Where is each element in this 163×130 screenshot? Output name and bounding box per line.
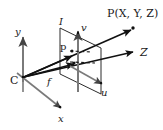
- axis-u-tip-marker: [100, 82, 102, 84]
- camera-center-label: C: [10, 74, 18, 87]
- image-point-label: p: [60, 41, 66, 52]
- axis-z-label: Z: [139, 46, 148, 59]
- camera-center-marker: [22, 76, 25, 79]
- camera-projection-diagram: P(X, Y, Z) I p f C y x Z u v: [0, 0, 163, 130]
- axis-v-label: v: [81, 22, 87, 33]
- axis-u-label: u: [101, 87, 107, 98]
- principal-point-marker: [73, 62, 76, 65]
- axis-x-tip-marker: [59, 106, 62, 109]
- axis-x-label: x: [58, 113, 64, 124]
- axis-y-label: y: [14, 26, 21, 37]
- axis-v-tip-marker: [77, 32, 79, 34]
- projection-figure: P(X, Y, Z) I p f C y x Z u v: [0, 0, 163, 130]
- image-point-marker: [71, 50, 74, 53]
- world-point-label: P(X, Y, Z): [107, 7, 158, 20]
- world-point-marker: [131, 26, 134, 29]
